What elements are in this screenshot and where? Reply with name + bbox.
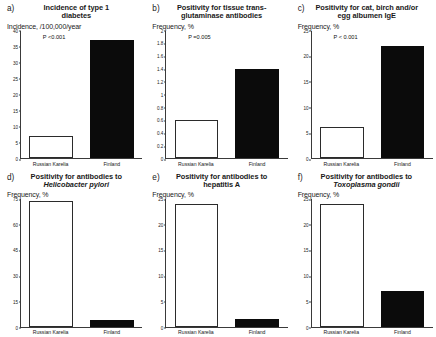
y-tick-label: 25 — [158, 197, 163, 202]
y-tick-label: 5 — [161, 299, 164, 304]
bar-slot — [175, 31, 219, 158]
chart-panel-c: c)Positivity for cat, birch and/oregg al… — [291, 0, 436, 169]
y-tick-label: 15 — [13, 108, 18, 113]
y-axis-label: Incidence, /100,000/year — [7, 23, 142, 30]
plot-area: P < 0.001 — [311, 199, 433, 327]
bar-group — [312, 199, 433, 326]
y-axis-label: Frequency, % — [7, 191, 142, 198]
y-tick-label: 30 — [13, 274, 18, 279]
y-tick-label: 25 — [304, 197, 309, 202]
plot-area: P < 0.001 — [165, 199, 287, 327]
y-tick-label: 10 — [13, 124, 18, 129]
panel-letter: c) — [298, 4, 305, 13]
plot-wrapper: 21.81.61.41.210.80.60.40.20P =0.005 — [148, 31, 287, 159]
y-tick-label: 30 — [13, 60, 18, 65]
x-tick-label: Finland — [81, 329, 142, 335]
chart-panel-a: a)Incidence of type 1diabetesIncidence, … — [0, 0, 145, 169]
y-axis-label: Frequency, % — [152, 23, 287, 30]
y-tick-label: 25 — [304, 28, 309, 33]
y-tick-label: 15 — [304, 248, 309, 253]
y-tick-label: 60 — [13, 222, 18, 227]
y-axis-ticks: 2520151050 — [148, 199, 165, 327]
bar-group — [166, 199, 287, 326]
y-tick-label: 0 — [15, 325, 18, 330]
x-axis-labels: Russian KareliaFinland — [311, 161, 433, 167]
y-tick-label: 2 — [161, 28, 164, 33]
chart-panel-f: f)Positivity for antibodies toToxoplasma… — [291, 169, 436, 337]
y-tick-label: 10 — [304, 274, 309, 279]
panel-title-line2: egg albumen IgE — [338, 11, 396, 20]
panel-header: f)Positivity for antibodies toToxoplasma… — [294, 173, 433, 190]
bar-russian-karelia — [175, 204, 219, 326]
bar-slot — [381, 199, 425, 326]
y-tick-label: 45 — [13, 248, 18, 253]
y-tick-label: 0.8 — [157, 105, 163, 110]
bar-group — [21, 31, 142, 158]
x-axis-labels: Russian KareliaFinland — [311, 329, 433, 335]
panel-title-line2: hepatitis A — [203, 180, 240, 189]
x-tick-label: Finland — [227, 329, 288, 335]
y-axis-ticks: 4035302520151050 — [3, 31, 20, 159]
panel-header: e)Positivity for antibodies tohepatitis … — [148, 173, 287, 190]
y-tick-label: 1.8 — [157, 41, 163, 46]
bar-slot — [235, 31, 279, 158]
plot-wrapper: 4035302520151050P <0.001 — [3, 31, 142, 159]
y-tick-label: 1 — [161, 92, 164, 97]
bar-group — [312, 31, 433, 158]
bar-slot — [90, 199, 134, 326]
y-tick-label: 0 — [161, 157, 164, 162]
plot-wrapper: 2520151050P < 0.001 — [294, 31, 433, 159]
bar-finland — [381, 291, 425, 327]
y-tick-label: 20 — [304, 222, 309, 227]
bar-slot — [29, 199, 73, 326]
panel-title-line2: Helicobacter pylori — [44, 180, 110, 189]
panel-header: d)Positivity for antibodies toHelicobact… — [3, 173, 142, 190]
y-tick-label: 0.2 — [157, 144, 163, 149]
y-tick-label: 1.2 — [157, 79, 163, 84]
x-tick-label: Russian Karelia — [20, 161, 81, 167]
bar-group — [21, 199, 142, 326]
x-axis-labels: Russian KareliaFinland — [165, 329, 287, 335]
y-tick-label: 15 — [304, 79, 309, 84]
y-axis-label: Frequency, % — [298, 191, 433, 198]
x-tick-label: Finland — [372, 161, 433, 167]
y-tick-label: 15 — [158, 248, 163, 253]
y-tick-label: 5 — [306, 131, 309, 136]
x-tick-label: Russian Karelia — [311, 329, 372, 335]
bar-finland — [381, 46, 425, 158]
plot-area: P <0.001 — [20, 31, 142, 159]
x-axis-labels: Russian KareliaFinland — [20, 329, 142, 335]
panel-title: Positivity for cat, birch and/oregg albu… — [294, 4, 433, 21]
figure-panel-grid: a)Incidence of type 1diabetesIncidence, … — [0, 0, 436, 337]
bar-slot — [90, 31, 134, 158]
plot-wrapper: 2520151050P < 0.001 — [294, 199, 433, 327]
x-tick-label: Russian Karelia — [165, 161, 226, 167]
y-axis-ticks: 2520151050 — [294, 31, 311, 159]
y-tick-label: 10 — [158, 274, 163, 279]
chart-panel-e: e)Positivity for antibodies tohepatitis … — [145, 169, 290, 337]
y-tick-label: 40 — [13, 28, 18, 33]
plot-wrapper: 2520151050P < 0.001 — [148, 199, 287, 327]
panel-header: a)Incidence of type 1diabetes — [3, 4, 142, 21]
y-tick-label: 20 — [13, 92, 18, 97]
chart-panel-b: b)Positivity for tissue trans-glutaminas… — [145, 0, 290, 169]
y-tick-label: 20 — [304, 54, 309, 59]
bar-slot — [235, 199, 279, 326]
y-tick-label: 25 — [13, 76, 18, 81]
y-tick-label: 20 — [158, 222, 163, 227]
panel-title: Positivity for antibodies toHelicobacter… — [3, 173, 142, 190]
y-tick-label: 0 — [306, 157, 309, 162]
bar-russian-karelia — [29, 136, 73, 158]
panel-header: c)Positivity for cat, birch and/oregg al… — [294, 4, 433, 21]
y-axis-label: Frequency, % — [152, 191, 287, 198]
panel-letter: e) — [152, 173, 159, 182]
y-tick-label: 1.4 — [157, 67, 163, 72]
y-tick-label: 5 — [306, 299, 309, 304]
bar-russian-karelia — [175, 120, 219, 158]
bar-finland — [235, 319, 279, 327]
panel-title-line2: Toxoplasma gondii — [333, 180, 399, 189]
panel-title: Incidence of type 1diabetes — [3, 4, 142, 21]
y-tick-label: 5 — [15, 140, 18, 145]
bar-finland — [235, 69, 279, 158]
x-tick-label: Finland — [227, 161, 288, 167]
